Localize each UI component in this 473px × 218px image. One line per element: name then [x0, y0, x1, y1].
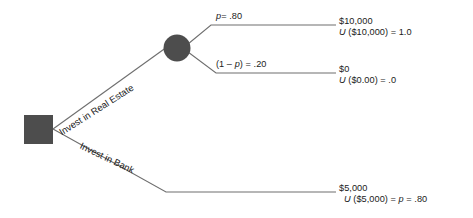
utility-expression-post-3: = .80 — [404, 194, 428, 204]
decision-tree-diagram: Invest in Real Estate Invest in Bank p= … — [0, 0, 473, 218]
probability-value-upper: = .80 — [221, 11, 242, 21]
branch-line-bank — [53, 129, 336, 192]
utility-expression-2: ($0.00) = .0 — [346, 75, 396, 85]
branch-line-real-estate — [53, 47, 167, 129]
utility-function-symbol-2: U — [339, 75, 346, 85]
utility-function-symbol-3: U — [344, 194, 351, 204]
utility-function-symbol-1: U — [339, 27, 346, 37]
outcome-utility-3: U ($5,000) = p = .80 — [344, 194, 427, 205]
branch-line-probability-upper — [188, 25, 336, 44]
outcome-amount-2: $0 — [339, 64, 349, 75]
probability-prefix-lower: (1 – — [216, 59, 235, 69]
utility-expression-1: ($10,000) = 1.0 — [346, 27, 412, 37]
outcome-utility-2: U ($0.00) = .0 — [339, 75, 396, 86]
utility-expression-pre-3: ($5,000) = — [351, 194, 399, 204]
outcome-utility-1: U ($10,000) = 1.0 — [339, 27, 412, 38]
probability-label-upper: p= .80 — [216, 11, 242, 22]
outcome-amount-1: $10,000 — [339, 16, 373, 27]
probability-suffix-lower: ) = .20 — [240, 59, 267, 69]
probability-label-lower: (1 – p) = .20 — [216, 59, 266, 70]
chance-node-circle — [164, 35, 191, 62]
outcome-amount-3: $5,000 — [339, 183, 367, 194]
decision-node-square — [24, 115, 53, 144]
